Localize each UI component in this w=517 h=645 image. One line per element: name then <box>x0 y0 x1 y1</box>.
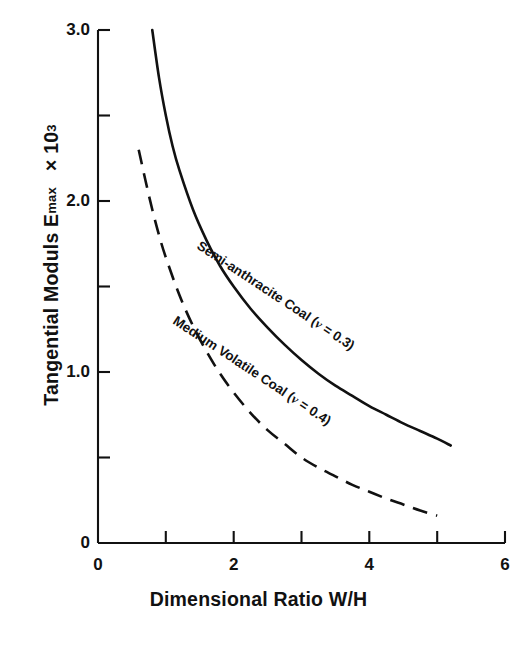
x-axis-ticks <box>166 531 505 543</box>
y-tick-label-0: 0 <box>44 534 90 551</box>
y-axis-title-multiplier: × 10 <box>40 132 63 171</box>
series-semi-anthracite-curve <box>152 30 450 446</box>
series-medium-volatile-label: Medium Volatile Coal (ν = 0.4) <box>170 313 334 428</box>
y-axis-title-subscript: max <box>44 187 59 214</box>
x-axis-title: Dimensional Ratio W/H <box>0 588 517 611</box>
y-axis-ticks <box>98 30 110 458</box>
axis-lines <box>98 30 505 543</box>
y-axis-title: Tangential Moduls Emax× 103 <box>34 30 68 500</box>
x-tick-label-2: 2 <box>214 556 254 573</box>
svg-text:Medium Volatile Coal (ν = 0.4): Medium Volatile Coal (ν = 0.4) <box>170 313 334 428</box>
y-axis-title-main: Tangential Moduls E <box>40 214 63 406</box>
x-tick-label-0: 0 <box>78 556 118 573</box>
x-tick-label-4: 4 <box>349 556 389 573</box>
chart-figure: Semi-anthracite Coal (ν = 0.3) Medium Vo… <box>0 0 517 645</box>
x-tick-label-6: 6 <box>485 556 517 573</box>
y-axis-title-exponent: 3 <box>44 124 59 131</box>
